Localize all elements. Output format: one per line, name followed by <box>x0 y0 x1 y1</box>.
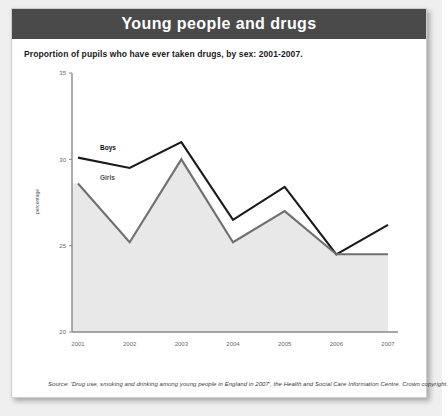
source-note: Source: 'Drug use, smoking and drinking … <box>48 381 448 387</box>
svg-text:35: 35 <box>59 70 66 76</box>
page-title: Young people and drugs <box>121 15 316 33</box>
chart-card: Young people and drugs Proportion of pup… <box>11 8 427 398</box>
svg-text:20: 20 <box>59 329 66 335</box>
line-chart: 202530352001200220032004200520062007Boys… <box>24 67 416 372</box>
svg-text:Boys: Boys <box>100 144 116 152</box>
svg-text:Girls: Girls <box>100 174 115 181</box>
chart-subtitle: Proportion of pupils who have ever taken… <box>24 49 303 59</box>
svg-text:2004: 2004 <box>226 341 240 347</box>
svg-text:25: 25 <box>59 243 66 249</box>
svg-text:2002: 2002 <box>123 341 137 347</box>
svg-text:2005: 2005 <box>278 341 292 347</box>
svg-text:2007: 2007 <box>381 341 395 347</box>
svg-text:30: 30 <box>59 157 66 163</box>
title-bar: Young people and drugs <box>12 9 426 39</box>
chart-plot-area: 202530352001200220032004200520062007Boys… <box>24 67 416 372</box>
svg-text:2003: 2003 <box>175 341 189 347</box>
svg-text:2006: 2006 <box>330 341 344 347</box>
svg-text:2001: 2001 <box>71 341 85 347</box>
